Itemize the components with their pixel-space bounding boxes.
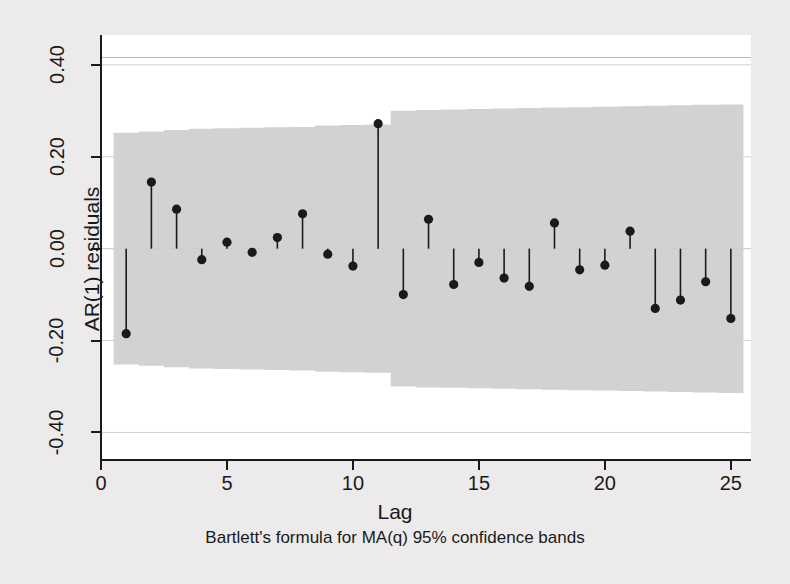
plot-area: [101, 35, 751, 460]
chart-canvas: [101, 35, 751, 460]
x-axis-line: [100, 459, 751, 461]
x-tick-mark: [730, 461, 732, 470]
data-point-marker: [323, 250, 332, 259]
data-point-marker: [122, 329, 131, 338]
x-tick-mark: [100, 461, 102, 470]
y-tick-label: -0.40: [28, 422, 86, 442]
data-point-marker: [651, 304, 660, 313]
plot-top-gridline: [100, 57, 751, 58]
data-point-marker: [625, 227, 634, 236]
x-tick-label: 25: [701, 472, 761, 495]
data-point-marker: [525, 282, 534, 291]
data-point-marker: [701, 277, 710, 286]
data-point-marker: [273, 233, 282, 242]
x-tick-label: 0: [71, 472, 131, 495]
x-tick-label: 15: [449, 472, 509, 495]
data-point-marker: [575, 265, 584, 274]
data-point-marker: [726, 314, 735, 323]
y-tick-label: 0.40: [28, 55, 86, 75]
data-point-marker: [399, 290, 408, 299]
x-axis-title: Lag: [0, 500, 790, 524]
data-point-marker: [298, 209, 307, 218]
y-tick-label: -0.20: [28, 331, 86, 351]
y-tick-mark: [91, 64, 100, 66]
y-axis-title: AR(1) residuals: [80, 109, 104, 409]
data-point-marker: [550, 218, 559, 227]
chart-footnote: Bartlett's formula for MA(q) 95% confide…: [0, 528, 790, 548]
x-tick-mark: [604, 461, 606, 470]
data-point-marker: [449, 280, 458, 289]
x-tick-mark: [478, 461, 480, 470]
y-tick-label: 0.20: [28, 147, 86, 167]
x-tick-mark: [226, 461, 228, 470]
acf-chart-figure: 0.400.200.00-0.20-0.40 0510152025 AR(1) …: [0, 0, 790, 584]
x-tick-label: 10: [323, 472, 383, 495]
data-point-marker: [474, 258, 483, 267]
y-tick-label: 0.00: [28, 239, 86, 259]
data-point-marker: [248, 248, 257, 257]
data-point-marker: [197, 255, 206, 264]
data-point-marker: [600, 261, 609, 270]
x-tick-mark: [352, 461, 354, 470]
data-point-marker: [676, 296, 685, 305]
data-point-marker: [147, 177, 156, 186]
x-tick-label: 5: [197, 472, 257, 495]
data-point-marker: [424, 215, 433, 224]
y-tick-mark: [91, 431, 100, 433]
data-point-marker: [374, 119, 383, 128]
data-point-marker: [500, 273, 509, 282]
data-point-marker: [222, 238, 231, 247]
x-tick-label: 20: [575, 472, 635, 495]
data-point-marker: [348, 262, 357, 271]
data-point-marker: [172, 205, 181, 214]
